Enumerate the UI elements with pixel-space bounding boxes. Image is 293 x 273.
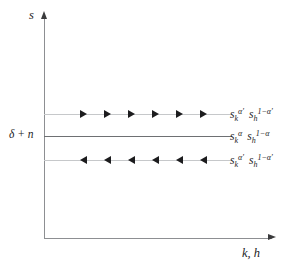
expression-superscript: α <box>238 129 242 138</box>
expression-superscript: α' <box>238 107 244 116</box>
expression-term: sh1−α' <box>249 154 273 166</box>
x-axis-label: k, h <box>242 246 260 261</box>
expression-superscript: α' <box>238 153 244 162</box>
arrow-up-icon <box>41 11 47 19</box>
expression-term: skα' <box>230 108 244 120</box>
expression-superscript: 1−α' <box>257 153 272 162</box>
arrow-marker-right <box>200 110 207 118</box>
y-axis-label: s <box>29 8 34 23</box>
arrow-marker-left <box>200 156 207 164</box>
x-axis <box>44 238 272 239</box>
steady-state-curve <box>44 136 232 137</box>
level-label-delta-plus-n: δ + n <box>9 128 34 140</box>
expression-superscript: 1−α' <box>257 107 272 116</box>
expression-term: skα' <box>230 154 244 166</box>
arrow-marker-right <box>152 110 159 118</box>
arrow-marker-left <box>128 156 135 164</box>
arrow-marker-right <box>80 110 87 118</box>
arrow-marker-left <box>176 156 183 164</box>
arrow-marker-right <box>128 110 135 118</box>
expression-term: sh1−α' <box>249 108 273 120</box>
arrow-marker-left <box>104 156 111 164</box>
arrow-marker-right <box>104 110 111 118</box>
phase-diagram-figure: s k, h δ + n skα'sh1−α' skαsh1−α skα'sh1… <box>0 0 293 273</box>
lower-curve-label: skα'sh1−α' <box>230 154 278 168</box>
steady-state-curve-label: skαsh1−α <box>230 130 274 144</box>
arrow-marker-right <box>176 110 183 118</box>
arrow-marker-left <box>152 156 159 164</box>
arrow-marker-left <box>80 156 87 164</box>
upper-curve-label: skα'sh1−α' <box>230 108 278 122</box>
expression-superscript: 1−α <box>256 129 270 138</box>
y-axis <box>44 18 45 239</box>
arrow-right-icon <box>268 234 276 240</box>
expression-term: sh1−α <box>247 130 269 142</box>
expression-term: skα <box>230 130 242 142</box>
